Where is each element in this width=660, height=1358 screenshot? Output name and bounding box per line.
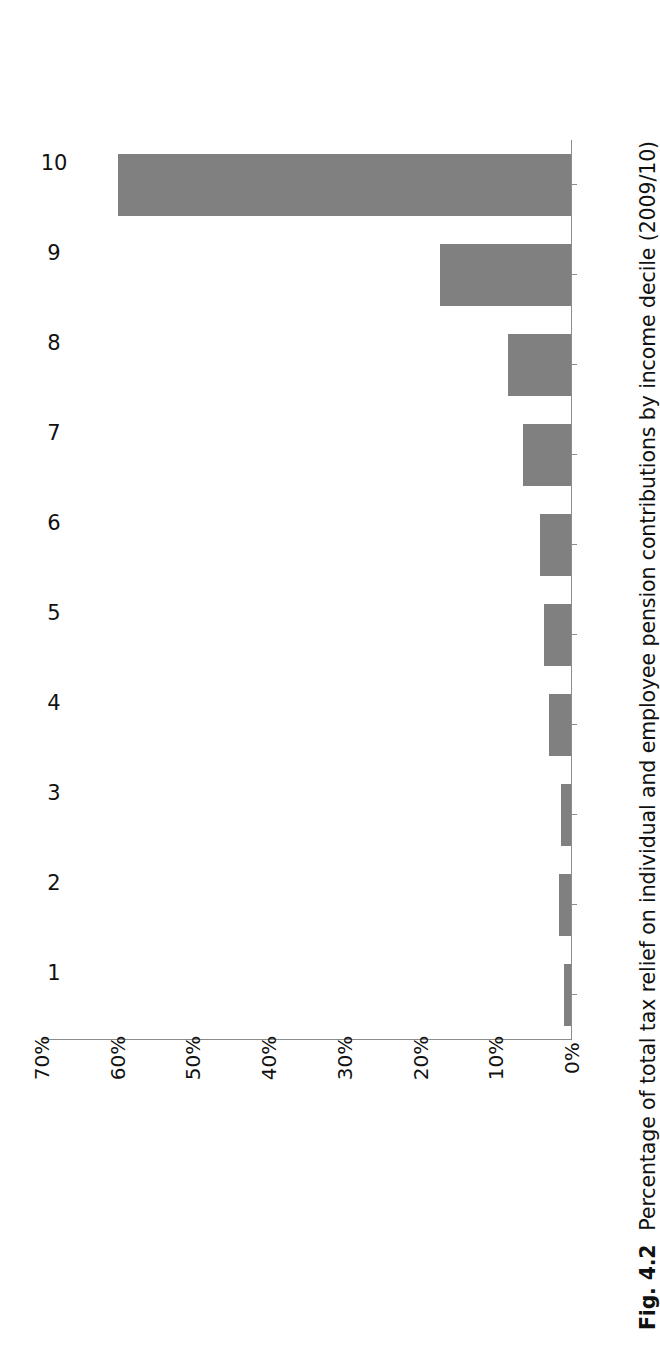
category-label-9: 9: [23, 241, 85, 265]
bar-group-10: [42, 154, 572, 216]
plot-area: [42, 140, 572, 1040]
value-tick-labels: 70%60%50%40%30%20%10%0%: [0, 1046, 654, 1156]
value-label-0pct: 0%: [560, 1028, 584, 1088]
category-label-4: 4: [23, 691, 85, 715]
value-label-70pct: 70%: [30, 1028, 54, 1088]
bar-group-7: [42, 424, 572, 486]
value-label-30pct: 30%: [333, 1028, 357, 1088]
value-label-50pct: 50%: [181, 1028, 205, 1088]
bar-10: [118, 154, 572, 216]
category-tick-2: [572, 904, 577, 905]
category-tick-9: [572, 274, 577, 275]
bar-5: [544, 604, 572, 666]
category-label-7: 7: [23, 421, 85, 445]
bar-7: [523, 424, 572, 486]
category-label-5: 5: [23, 601, 85, 625]
category-label-10: 10: [23, 151, 85, 175]
category-tick-1: [572, 994, 577, 995]
value-label-40pct: 40%: [257, 1028, 281, 1088]
bars-layer: [42, 140, 572, 1040]
category-label-3: 3: [23, 781, 85, 805]
category-label-6: 6: [23, 511, 85, 535]
bar-group-6: [42, 514, 572, 576]
bar-9: [440, 244, 573, 306]
category-tick-3: [572, 814, 577, 815]
bar-chart: [42, 140, 572, 1040]
figure-caption-text: Percentage of total tax relief on indivi…: [636, 141, 660, 1231]
category-tick-6: [572, 544, 577, 545]
value-label-60pct: 60%: [106, 1028, 130, 1088]
category-tick-10: [572, 184, 577, 185]
category-tick-5: [572, 634, 577, 635]
bar-6: [540, 514, 572, 576]
bar-8: [508, 334, 572, 396]
category-tick-8: [572, 364, 577, 365]
category-label-8: 8: [23, 331, 85, 355]
category-label-1: 1: [23, 961, 85, 985]
bar-group-1: [42, 964, 572, 1026]
bar-4: [549, 694, 572, 756]
bar-group-3: [42, 784, 572, 846]
value-label-10pct: 10%: [484, 1028, 508, 1088]
category-tick-7: [572, 454, 577, 455]
bar-group-2: [42, 874, 572, 936]
bar-group-9: [42, 244, 572, 306]
bar-group-8: [42, 334, 572, 396]
bar-group-5: [42, 604, 572, 666]
figure-number: Fig. 4.2: [636, 1245, 660, 1330]
value-label-20pct: 20%: [409, 1028, 433, 1088]
category-axis-line: [571, 140, 572, 1040]
bar-group-4: [42, 694, 572, 756]
category-label-2: 2: [23, 871, 85, 895]
category-tick-4: [572, 724, 577, 725]
figure-caption: Fig. 4.2Percentage of total tax relief o…: [638, 141, 660, 1330]
